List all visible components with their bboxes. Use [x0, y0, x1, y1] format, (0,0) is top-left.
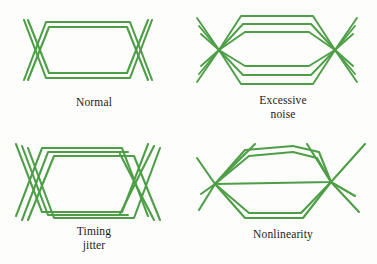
caption-jitter-line-2: jitter	[0, 239, 188, 253]
caption-nonlinearity-line-1: Nonlinearity	[189, 228, 377, 242]
caption-nonlinearity: Nonlinearity	[189, 228, 377, 242]
panel-excessive-noise: Excessive noise	[189, 0, 377, 132]
caption-normal-line-1: Normal	[0, 96, 188, 110]
caption-normal: Normal	[0, 96, 188, 110]
eye-diagram-timing-jitter	[0, 132, 188, 232]
caption-noise-line-2: noise	[189, 108, 377, 122]
eye-diagram-nonlinearity	[189, 132, 377, 232]
eye-diagram-excessive-noise	[189, 0, 377, 100]
panel-normal: Normal	[0, 0, 188, 132]
eye-diagram-normal	[0, 0, 188, 100]
panel-timing-jitter: Timing jitter	[0, 132, 188, 264]
caption-timing-jitter: Timing jitter	[0, 225, 188, 252]
eye-diagram-figure: Normal Exc	[0, 0, 377, 264]
caption-noise-line-1: Excessive	[189, 94, 377, 108]
caption-excessive-noise: Excessive noise	[189, 94, 377, 121]
caption-jitter-line-1: Timing	[0, 225, 188, 239]
panel-nonlinearity: Nonlinearity	[189, 132, 377, 264]
